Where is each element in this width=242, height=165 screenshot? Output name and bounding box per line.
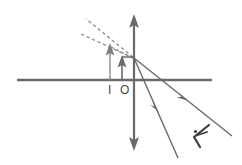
virtual-ray-lower-dashed <box>79 33 133 58</box>
image-label: I <box>108 84 112 96</box>
object-label: O <box>120 84 130 96</box>
observer-eye-icon <box>194 125 209 147</box>
optics-ray-diagram: I O <box>0 0 242 165</box>
